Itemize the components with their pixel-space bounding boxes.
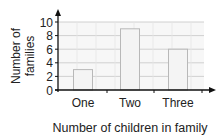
y-axis-arrow-icon (55, 9, 61, 16)
x-axis-arrow-icon (209, 87, 216, 93)
x-tick-label: Two (119, 96, 141, 110)
y-tick-label: 0 (46, 84, 53, 98)
y-tick-labels: 0246810 (40, 16, 58, 98)
y-tick-label: 6 (46, 43, 53, 57)
x-tick-label: Three (162, 96, 194, 110)
bar-three (169, 49, 188, 90)
y-tick-label: 4 (46, 56, 53, 70)
y-axis-label-line-2: families (23, 36, 37, 77)
bar-chart: 0246810 OneTwoThree Number of children i… (0, 0, 222, 138)
x-tick-labels: OneTwoThree (72, 90, 202, 110)
y-axis-label: Number of families (9, 27, 37, 84)
y-tick-label: 8 (46, 29, 53, 43)
x-axis-label: Number of children in family (53, 121, 209, 135)
y-tick-label: 10 (40, 16, 54, 30)
bar-two (121, 29, 140, 90)
x-tick-label: One (72, 96, 95, 110)
bar-one (74, 70, 93, 90)
y-axis-label-line-1: Number of (9, 27, 23, 84)
y-tick-label: 2 (46, 70, 53, 84)
